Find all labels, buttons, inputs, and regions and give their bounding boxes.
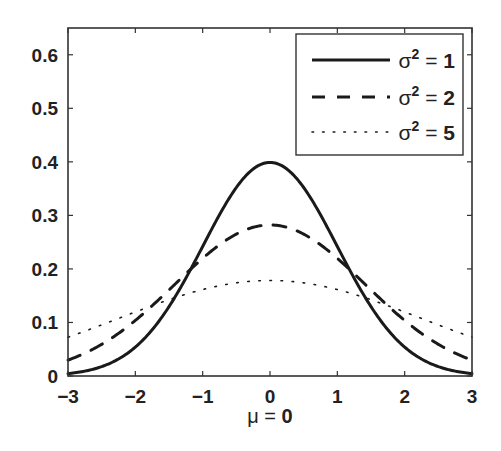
- x-tick-label: −3: [57, 386, 79, 407]
- legend-label: σ2 = 2: [399, 83, 455, 109]
- legend: σ2 = 1 σ2 = 2 σ2 = 5: [296, 34, 463, 155]
- legend-label: σ2 = 5: [399, 118, 456, 144]
- y-tick-label: 0.6: [32, 45, 58, 66]
- x-tick-label: 3: [467, 386, 478, 407]
- legend-label: σ2 = 1: [399, 46, 456, 72]
- y-tick-label: 0.4: [32, 152, 59, 173]
- x-axis-label: μ = 0: [247, 405, 292, 427]
- y-tick-label: 0.2: [32, 259, 58, 280]
- chart-figure: 00.10.20.30.40.50.6 −3−2−10123 μ = 0 σ2 …: [0, 0, 501, 451]
- y-axis-tick-labels: 00.10.20.30.40.50.6: [32, 45, 59, 387]
- x-tick-label: 0: [265, 386, 276, 407]
- y-tick-label: 0.1: [32, 312, 59, 333]
- x-tick-label: 2: [399, 386, 410, 407]
- x-tick-label: −2: [124, 386, 146, 407]
- x-tick-label: 1: [332, 386, 343, 407]
- y-tick-label: 0: [47, 366, 58, 387]
- x-axis-tick-labels: −3−2−10123: [57, 386, 477, 407]
- x-tick-label: −1: [192, 386, 214, 407]
- y-tick-label: 0.5: [32, 98, 59, 119]
- y-tick-label: 0.3: [32, 205, 58, 226]
